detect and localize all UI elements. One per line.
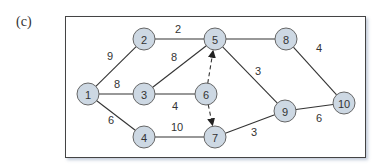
edge-weight-1-3: 8	[114, 78, 120, 90]
node-7: 7	[204, 126, 226, 148]
edge-weight-2-5: 2	[175, 23, 181, 35]
node-label: 2	[141, 34, 147, 46]
edge-3-5	[153, 46, 207, 88]
edge-weight-9-10: 6	[316, 112, 322, 124]
node-9: 9	[274, 100, 296, 122]
node-5: 5	[204, 28, 226, 50]
node-1: 1	[77, 83, 99, 105]
edge-weight-5-9: 3	[255, 65, 261, 77]
edge-weight-4-7: 10	[171, 121, 183, 133]
edge-8-10	[293, 47, 336, 95]
edge-weight-1-2: 9	[107, 50, 113, 62]
edge-6-5	[208, 51, 213, 83]
node-8: 8	[275, 28, 297, 50]
node-label: 8	[283, 34, 289, 46]
node-label: 3	[141, 89, 147, 101]
node-label: 9	[282, 106, 288, 118]
edge-6-7	[208, 105, 212, 125]
network-graph: 986284103436 12345678910	[0, 0, 386, 166]
edge-1-4	[97, 101, 136, 131]
node-4: 4	[133, 126, 155, 148]
edge-weight-3-5: 8	[171, 51, 177, 63]
edge-weight-1-4: 6	[108, 114, 114, 126]
edge-weight-7-9: 3	[251, 126, 257, 138]
edge-5-9	[223, 47, 278, 103]
node-6: 6	[195, 83, 217, 105]
edges	[96, 39, 337, 137]
node-label: 5	[212, 34, 218, 46]
node-label: 1	[85, 89, 91, 101]
edge-9-10	[296, 104, 333, 109]
edge-weight-8-10: 4	[316, 42, 322, 54]
node-3: 3	[133, 83, 155, 105]
edge-weight-3-6: 4	[172, 100, 178, 112]
node-2: 2	[133, 28, 155, 50]
node-10: 10	[333, 92, 355, 114]
node-label: 4	[141, 132, 147, 144]
node-label: 6	[203, 89, 209, 101]
node-label: 7	[212, 132, 218, 144]
node-label: 10	[338, 98, 350, 110]
